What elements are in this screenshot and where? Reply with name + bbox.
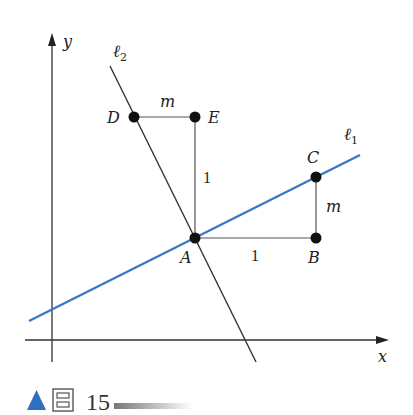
point-B [311, 233, 322, 244]
segment-BC-label: m [326, 197, 341, 216]
point-B-label: B [307, 248, 320, 267]
segment-DE-label: m [160, 92, 175, 111]
line-l1-label: ℓ1 [344, 124, 358, 147]
x-axis-label: x [378, 347, 387, 366]
point-C-label: C [307, 148, 319, 167]
caption-triangle-icon [27, 390, 46, 410]
caption-char-icon [53, 389, 73, 411]
figure-caption: 15 [27, 389, 192, 415]
segment-AE-label: 1 [203, 169, 211, 186]
figure-diagram: y x ℓ1 ℓ2 1 m 1 m A B C D E [0, 0, 413, 415]
y-axis-label: y [62, 32, 73, 51]
x-axis: x [25, 336, 389, 366]
line-l2-label: ℓ2 [113, 41, 127, 64]
point-E-label: E [207, 108, 220, 127]
y-axis-arrow-icon [48, 33, 56, 46]
point-C [311, 172, 322, 183]
point-D-label: D [106, 108, 120, 127]
point-A [190, 233, 201, 244]
caption-number: 15 [86, 389, 110, 415]
x-axis-arrow-icon [376, 336, 389, 344]
caption-bar [114, 403, 192, 409]
point-A-label: A [178, 248, 192, 267]
line-l2 [110, 66, 256, 362]
segment-AB-label: 1 [251, 247, 259, 264]
point-D [129, 112, 140, 123]
y-axis: y [48, 32, 73, 362]
point-E [190, 112, 201, 123]
construction-segments [134, 117, 316, 238]
